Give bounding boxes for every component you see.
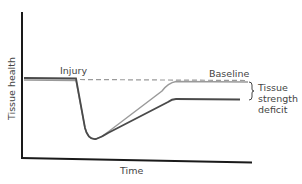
deficit-label-line1: Tissue [257,82,288,93]
y-axis-label: Tissue health [6,57,17,121]
full-recovery-curve [24,80,248,139]
x-axis-label: Time [119,165,143,176]
tissue-health-diagram: Injury Baseline Tissue strength deficit … [0,0,302,184]
baseline-label: Baseline [209,68,249,79]
deficit-label-line2: strength [258,93,298,104]
x-axis [21,158,252,163]
injury-label: Injury [60,65,87,76]
baseline-dashed-line [80,80,248,81]
incomplete-recovery-curve [24,78,240,139]
deficit-brace [249,82,254,100]
deficit-label-line3: deficit [258,104,288,115]
